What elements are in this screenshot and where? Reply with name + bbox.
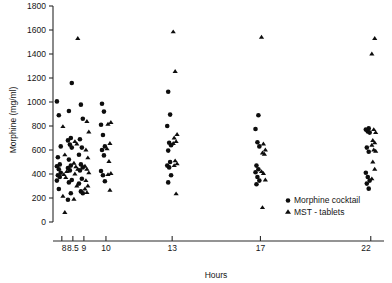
data-point-morphine-cocktail: [81, 191, 86, 196]
data-point-mst-tablets: [75, 36, 80, 40]
data-point-mst-tablets: [171, 29, 176, 33]
y-axis-title: Morphine (mg/ml): [8, 87, 18, 154]
data-point-morphine-cocktail: [165, 124, 170, 129]
data-point-morphine-cocktail: [166, 148, 171, 153]
y-tick-label: 1400: [27, 49, 46, 59]
y-tick-label: 400: [32, 169, 46, 179]
data-point-morphine-cocktail: [66, 198, 71, 203]
data-point-mst-tablets: [107, 188, 112, 192]
y-tick-label: 600: [32, 145, 46, 155]
data-point-morphine-cocktail: [57, 175, 62, 180]
data-point-morphine-cocktail: [364, 171, 369, 176]
chart-legend: Morphine cocktailMST - tablets: [285, 195, 360, 217]
data-point-morphine-cocktail: [81, 117, 86, 122]
data-point-morphine-cocktail: [168, 112, 173, 117]
y-tick-label: 1000: [27, 97, 46, 107]
data-point-morphine-cocktail: [166, 90, 171, 95]
x-tick-label: 22: [361, 243, 371, 253]
data-point-morphine-cocktail: [364, 145, 369, 150]
data-point-morphine-cocktail: [102, 109, 107, 114]
data-point-morphine-cocktail: [253, 127, 258, 132]
x-tick-label: 9: [82, 243, 87, 253]
data-point-mst-tablets: [174, 191, 179, 195]
y-tick-label: 200: [32, 193, 46, 203]
legend-marker-triangle: [285, 209, 291, 214]
data-point-morphine-cocktail: [79, 102, 84, 107]
x-axis-title: Hours: [205, 270, 228, 280]
data-point-morphine-cocktail: [66, 138, 71, 143]
data-point-mst-tablets: [84, 190, 89, 194]
x-tick-label: 10: [101, 243, 111, 253]
data-point-morphine-cocktail: [69, 145, 74, 150]
y-tick-label: 1600: [27, 25, 46, 35]
data-point-morphine-cocktail: [101, 173, 106, 178]
data-point-morphine-cocktail: [257, 144, 262, 149]
data-point-mst-tablets: [172, 136, 177, 140]
legend-marker-circle: [286, 198, 291, 203]
data-point-mst-tablets: [86, 170, 91, 174]
scatter-plot-figure: 020040060080010001200140016001800 88.591…: [0, 0, 392, 283]
data-point-mst-tablets: [173, 69, 178, 73]
data-point-mst-tablets: [372, 36, 377, 40]
data-point-morphine-cocktail: [167, 165, 172, 170]
data-point-morphine-cocktail: [101, 133, 106, 138]
x-tick-label: 17: [256, 243, 266, 253]
data-point-morphine-cocktail: [166, 180, 171, 185]
y-tick-label: 1800: [27, 1, 46, 11]
data-point-mst-tablets: [71, 161, 76, 165]
data-point-mst-tablets: [86, 130, 91, 134]
data-point-mst-tablets: [108, 120, 113, 124]
data-point-mst-tablets: [71, 197, 76, 201]
data-point-morphine-cocktail: [99, 123, 104, 128]
data-point-morphine-cocktail: [69, 81, 74, 86]
data-point-mst-tablets: [106, 159, 111, 163]
x-tick-label: 13: [167, 243, 177, 253]
data-point-mst-tablets: [259, 35, 264, 39]
data-point-mst-tablets: [84, 119, 89, 123]
data-point-mst-tablets: [72, 172, 77, 176]
data-point-mst-tablets: [263, 148, 268, 152]
data-point-morphine-cocktail: [254, 182, 259, 187]
data-point-morphine-cocktail: [100, 102, 105, 107]
x-tick-label: 8.5: [67, 243, 79, 253]
data-point-mst-tablets: [261, 142, 266, 146]
data-point-morphine-cocktail: [67, 157, 72, 162]
data-point-mst-tablets: [107, 141, 112, 145]
legend-label: Morphine cocktail: [294, 195, 360, 205]
data-point-mst-tablets: [60, 124, 65, 128]
data-point-morphine-cocktail: [77, 153, 82, 158]
data-point-morphine-cocktail: [57, 113, 62, 118]
data-point-morphine-cocktail: [366, 150, 371, 155]
data-point-morphine-cocktail: [102, 153, 107, 158]
data-point-morphine-cocktail: [366, 186, 371, 191]
y-axis-ticks: 020040060080010001200140016001800: [27, 1, 53, 227]
data-point-morphine-cocktail: [80, 145, 85, 150]
data-point-mst-tablets: [85, 155, 90, 159]
data-point-morphine-cocktail: [55, 99, 60, 104]
data-point-morphine-cocktail: [255, 140, 260, 145]
data-point-mst-tablets: [85, 184, 90, 188]
data-point-morphine-cocktail: [103, 179, 108, 184]
data-point-morphine-cocktail: [57, 187, 62, 192]
x-axis-ticks: 88.5910131722: [62, 236, 371, 253]
data-point-mst-tablets: [174, 132, 179, 136]
legend-label: MST - tablets: [294, 207, 344, 217]
data-point-mst-tablets: [62, 152, 67, 156]
y-tick-label: 800: [32, 121, 46, 131]
data-point-mst-tablets: [260, 205, 265, 209]
data-point-mst-tablets: [83, 148, 88, 152]
data-point-mst-tablets: [174, 139, 179, 143]
y-tick-label: 1200: [27, 73, 46, 83]
data-point-morphine-cocktail: [78, 137, 83, 142]
data-point-mst-tablets: [62, 210, 67, 214]
data-point-morphine-cocktail: [58, 144, 63, 149]
data-point-morphine-cocktail: [56, 155, 61, 160]
data-point-morphine-cocktail: [364, 181, 369, 186]
data-point-morphine-cocktail: [257, 178, 262, 183]
data-point-morphine-cocktail: [253, 170, 258, 175]
data-point-morphine-cocktail: [67, 109, 72, 114]
data-point-mst-tablets: [370, 160, 375, 164]
data-point-morphine-cocktail: [168, 160, 173, 165]
y-tick-label: 0: [41, 217, 46, 227]
data-point-morphine-cocktail: [169, 173, 174, 178]
